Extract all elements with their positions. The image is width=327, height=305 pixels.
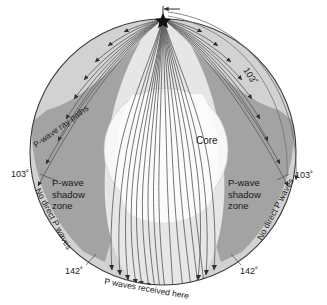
degree-142-right-label: 142˚ [240, 266, 258, 276]
degree-103-left-label: 103˚ [11, 169, 29, 179]
core-label: Core [196, 135, 218, 146]
degree-142-left-label: 142˚ [65, 266, 83, 276]
shadow-zone-left-line2: shadow [52, 189, 85, 200]
shadow-zone-left-line1: P-wave [52, 177, 84, 188]
shadow-zone-right-line3: zone [228, 200, 249, 211]
shadow-zone-right-line1: P-wave [228, 177, 260, 188]
degree-103-right-label: 103˚ [295, 170, 313, 180]
shadow-zone-right-line2: shadow [228, 189, 261, 200]
diagram-svg: Core P-wave ray paths P-wave shadow zone… [0, 0, 327, 305]
p-wave-shadow-zone-diagram: Core P-wave ray paths P-wave shadow zone… [0, 0, 327, 305]
